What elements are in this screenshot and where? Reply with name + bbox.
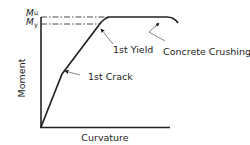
- my-label: My: [26, 17, 38, 29]
- first-yield-leader: [101, 29, 113, 44]
- my-subscript: y: [34, 21, 38, 29]
- first-yield-label: 1st Yield: [113, 44, 153, 55]
- y-axis-label: Moment: [16, 58, 27, 97]
- moment-curvature-diagram: Mu My 1st Crack 1st Yield Concrete Crush…: [0, 0, 250, 145]
- x-axis-label: Curvature: [81, 132, 128, 143]
- concrete-crushing-label: Concrete Crushing: [163, 46, 250, 57]
- my-symbol: M: [26, 17, 34, 27]
- concrete-crushing-arrow: [155, 23, 159, 27]
- mu-subscript: u: [34, 9, 38, 17]
- first-crack-leader: [65, 71, 80, 75]
- first-crack-label: 1st Crack: [88, 71, 133, 82]
- concrete-crushing-leader: [149, 24, 165, 41]
